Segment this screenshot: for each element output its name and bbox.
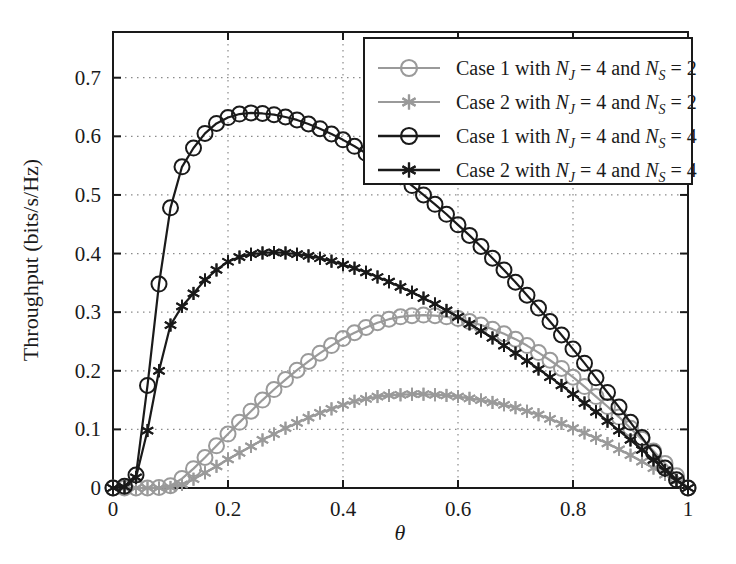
chart-legend: Case 1 with NJ = 4 and NS = 2Case 2 with… <box>364 38 697 185</box>
y-tick-label: 0.2 <box>75 359 101 383</box>
y-axis-title: Throughput (bits/s/Hz) <box>18 159 43 361</box>
x-tick-label: 0.6 <box>445 497 471 521</box>
y-tick-label: 0.3 <box>75 300 101 324</box>
y-tick-label: 0.7 <box>75 66 101 90</box>
throughput-vs-theta-figure: 00.20.40.60.81 00.10.20.30.40.50.60.7 θ … <box>0 0 736 564</box>
x-tick-label: 0.8 <box>560 497 586 521</box>
x-tick-label: 0.2 <box>215 497 241 521</box>
y-tick-label: 0.5 <box>75 183 101 207</box>
x-tick-label: 0 <box>108 497 119 521</box>
y-tick-label: 0 <box>91 476 102 500</box>
x-axis-title: θ <box>395 520 406 545</box>
x-tick-label: 0.4 <box>330 497 357 521</box>
x-tick-label: 1 <box>683 497 694 521</box>
y-tick-label: 0.1 <box>75 417 101 441</box>
chart-canvas: 00.20.40.60.81 00.10.20.30.40.50.60.7 θ … <box>0 0 736 564</box>
y-tick-label: 0.4 <box>75 242 102 266</box>
y-tick-label: 0.6 <box>75 124 101 148</box>
